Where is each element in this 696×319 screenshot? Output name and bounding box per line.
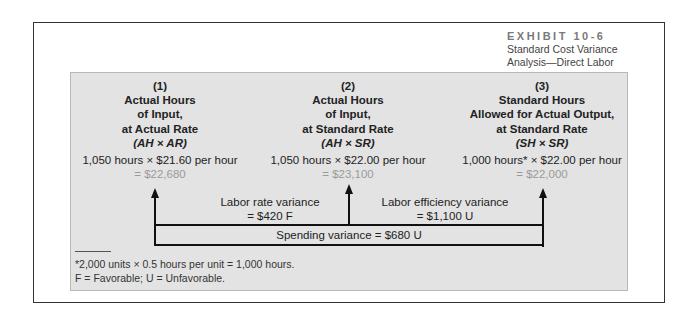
labor-rate-variance: Labor rate variance = $420 F bbox=[208, 195, 332, 223]
column-title-line: at Standard Rate bbox=[262, 122, 434, 136]
column-title-line: of Input, bbox=[80, 107, 240, 121]
exhibit-caption-line2: Analysis—Direct Labor bbox=[507, 56, 667, 69]
exhibit-caption-line1: Standard Cost Variance bbox=[507, 43, 667, 56]
spending-variance: Spending variance = $680 U bbox=[156, 228, 542, 242]
footnote-1: *2,000 units × 0.5 hours per unit = 1,00… bbox=[75, 258, 295, 271]
variance-bracket-bottom bbox=[154, 244, 544, 246]
column-title-line: at Actual Rate bbox=[80, 122, 240, 136]
column-index: (1) bbox=[80, 79, 240, 93]
footnote-rule bbox=[75, 251, 111, 252]
column-standard-rate: (2) Actual Hours of Input, at Standard R… bbox=[262, 79, 434, 181]
column-result: = $23,100 bbox=[262, 167, 434, 181]
variance-bracket-top bbox=[154, 224, 544, 226]
column-standard-hours: (3) Standard Hours Allowed for Actual Ou… bbox=[448, 79, 636, 181]
footnote-2: F = Favorable; U = Unfavorable. bbox=[75, 272, 225, 285]
labor-rate-variance-value: = $420 F bbox=[208, 209, 332, 223]
column-result: = $22,680 bbox=[80, 167, 240, 181]
column-formula: (AH × AR) bbox=[80, 136, 240, 150]
column-formula: (SH × SR) bbox=[448, 136, 636, 150]
labor-efficiency-variance-value: = $1,100 U bbox=[370, 209, 520, 223]
column-calculation: 1,000 hours* × $22.00 per hour bbox=[448, 153, 636, 167]
column-title-line: of Input, bbox=[262, 107, 434, 121]
column-title-line: at Standard Rate bbox=[448, 122, 636, 136]
column-calculation: 1,050 hours × $22.00 per hour bbox=[262, 153, 434, 167]
exhibit-number: EXHIBIT 10-6 bbox=[507, 30, 667, 43]
labor-rate-variance-label: Labor rate variance bbox=[208, 195, 332, 209]
exhibit-header: EXHIBIT 10-6 Standard Cost Variance Anal… bbox=[507, 30, 667, 69]
column-result: = $22,000 bbox=[448, 167, 636, 181]
labor-efficiency-variance-label: Labor efficiency variance bbox=[370, 195, 520, 209]
arrow-shaft-middle bbox=[348, 192, 350, 226]
column-title-line: Actual Hours bbox=[80, 93, 240, 107]
formula-text: (AH × AR) bbox=[133, 137, 187, 149]
column-index: (2) bbox=[262, 79, 434, 93]
formula-text: (SH × SR) bbox=[516, 137, 569, 149]
formula-text: (AH × SR) bbox=[321, 137, 374, 149]
column-index: (3) bbox=[448, 79, 636, 93]
column-actual-rate: (1) Actual Hours of Input, at Actual Rat… bbox=[80, 79, 240, 181]
column-title-line: Actual Hours bbox=[262, 93, 434, 107]
column-title-line: Standard Hours bbox=[448, 93, 636, 107]
arrow-shaft-right bbox=[542, 196, 544, 247]
labor-efficiency-variance: Labor efficiency variance = $1,100 U bbox=[370, 195, 520, 223]
column-title-line: Allowed for Actual Output, bbox=[448, 107, 636, 121]
column-formula: (AH × SR) bbox=[262, 136, 434, 150]
column-calculation: 1,050 hours × $21.60 per hour bbox=[80, 153, 240, 167]
